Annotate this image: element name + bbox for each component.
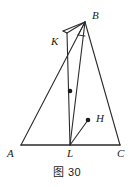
vertex-label-b: B — [92, 10, 99, 21]
vertex-label-l: L — [67, 148, 73, 159]
h-dot — [86, 118, 91, 123]
segment-b-to-upper-left — [63, 22, 85, 31]
vertex-label-k: K — [51, 36, 58, 47]
segment-upper-left-to-k — [63, 31, 67, 33]
vertex-label-c: C — [117, 148, 124, 159]
segment-bc — [85, 22, 120, 145]
midpoint-dot — [68, 89, 73, 94]
vertex-label-a: A — [7, 148, 14, 159]
figure-caption: 图 30 — [0, 166, 134, 179]
figure-container: A B C K L H 图 30 — [0, 0, 134, 187]
vertex-label-h: H — [96, 113, 104, 124]
